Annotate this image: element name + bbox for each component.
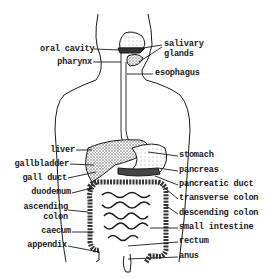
esophagus-tube — [121, 52, 134, 150]
label-salivary-glands-line1: salivary — [164, 40, 204, 49]
label-oral-cavity: oral cavity — [40, 45, 92, 54]
label-liver: liver — [20, 146, 75, 155]
label-rectum: rectum — [179, 237, 209, 246]
label-pharynx: pharynx — [40, 58, 92, 67]
anatomy-illustration — [0, 0, 265, 279]
label-pancreas: pancreas — [179, 166, 219, 175]
label-gallbladder: gallbladder — [4, 160, 69, 169]
label-duodenum: duodenum — [4, 188, 71, 197]
label-ascending-colon-line2: colon — [4, 213, 68, 222]
label-small-intestine: small intestine — [179, 223, 253, 232]
label-stomach: stomach — [179, 151, 214, 160]
small-intestine-shape — [102, 193, 150, 241]
label-descending-colon: descending colon — [179, 209, 258, 218]
label-gall-duct: gall duct — [4, 174, 67, 183]
label-ascending-colon-line1: ascending — [4, 203, 68, 212]
label-appendix: appendix — [4, 241, 67, 250]
label-salivary-glands-line2: glands — [164, 50, 194, 59]
label-esophagus: esophagus — [155, 69, 200, 78]
label-anus: anus — [179, 252, 199, 261]
digestive-system-diagram: oral cavity pharynx liver gallbladder ga… — [0, 0, 265, 279]
label-caecum: caecum — [4, 227, 71, 236]
label-transverse-colon: transverse colon — [179, 194, 258, 203]
label-pancreatic-duct: pancreatic duct — [179, 180, 253, 189]
